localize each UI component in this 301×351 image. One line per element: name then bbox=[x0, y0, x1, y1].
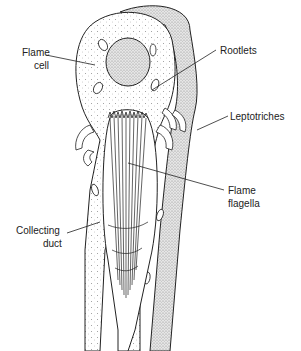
label-flame-cell: Flame cell bbox=[22, 47, 53, 71]
flame-cell-diagram: Flame cell Rootlets Leptotriches Flame f… bbox=[0, 0, 301, 351]
label-collecting-duct: Collecting duct bbox=[16, 225, 63, 249]
label-flame-flagella: Flame flagella bbox=[228, 185, 260, 209]
nucleus bbox=[106, 38, 150, 86]
label-rootlets: Rootlets bbox=[220, 45, 257, 56]
label-leptotriches: Leptotriches bbox=[230, 111, 284, 122]
